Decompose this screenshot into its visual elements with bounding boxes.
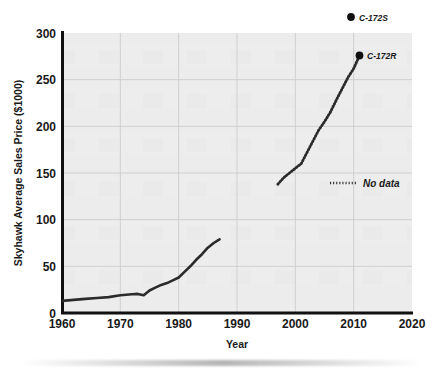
x-tick-2000: 2000 bbox=[282, 317, 309, 331]
c172s-label: C-172S bbox=[359, 13, 388, 23]
y-tick-50: 50 bbox=[43, 260, 57, 274]
c172r-marker-icon bbox=[356, 52, 364, 60]
x-tick-2020: 2020 bbox=[399, 317, 426, 331]
c172s-marker-icon bbox=[347, 13, 355, 21]
legend-label-no-data: No data bbox=[363, 178, 400, 189]
x-tick-1980: 1980 bbox=[165, 317, 192, 331]
y-tick-labels: 0 50 100 150 200 250 300 bbox=[36, 27, 56, 321]
x-tick-labels: 1960 1970 1980 1990 2000 2010 2020 bbox=[49, 317, 426, 331]
y-tick-150: 150 bbox=[36, 167, 56, 181]
x-tick-2010: 2010 bbox=[340, 317, 367, 331]
y-tick-300: 300 bbox=[36, 27, 56, 41]
page-fold-shadow bbox=[22, 360, 422, 366]
x-tick-1960: 1960 bbox=[49, 317, 76, 331]
c172r-label: C-172R bbox=[367, 51, 397, 61]
chart-svg: C-172R C-172S No data 0 50 100 150 200 2… bbox=[0, 0, 444, 372]
y-tick-200: 200 bbox=[36, 120, 56, 134]
x-tick-1970: 1970 bbox=[107, 317, 134, 331]
chart-figure: C-172R C-172S No data 0 50 100 150 200 2… bbox=[0, 0, 444, 372]
y-tick-250: 250 bbox=[36, 73, 56, 87]
x-tick-1990: 1990 bbox=[224, 317, 251, 331]
y-tick-100: 100 bbox=[36, 213, 56, 227]
y-axis-title: Skyhawk Average Sales Price ($1000) bbox=[12, 80, 24, 267]
x-axis-title: Year bbox=[226, 338, 248, 350]
